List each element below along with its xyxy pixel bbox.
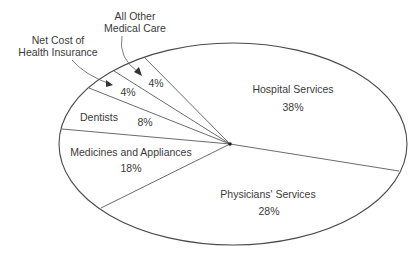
insurance-name-line1: Net Cost of (32, 34, 85, 46)
physicians-pct: 28% (258, 205, 279, 217)
other-name-line1: All Other (115, 10, 156, 22)
dentists-pct: 8% (137, 116, 152, 128)
pie-center-dot (228, 142, 232, 146)
insurance-name-line2: Health Insurance (18, 46, 98, 58)
hospital-name: Hospital Services (252, 83, 333, 95)
pie-outline (59, 43, 407, 245)
physicians-name: Physicians' Services (220, 188, 315, 200)
other-name-line2: Medical Care (104, 22, 166, 34)
other-pct: 4% (148, 77, 163, 89)
insurance-pct: 4% (120, 86, 135, 98)
medicines-name: Medicines and Appliances (70, 146, 191, 158)
medicines-pct: 18% (120, 162, 141, 174)
hospital-pct: 38% (282, 101, 303, 113)
pie-chart: Hospital Services 38% Physicians' Servic… (0, 0, 419, 256)
dentists-name: Dentists (80, 111, 118, 123)
